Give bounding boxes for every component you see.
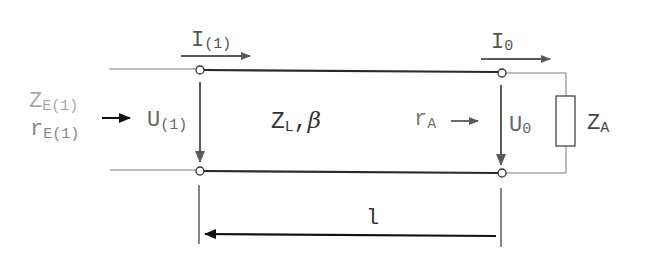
load-impedance-resistor (556, 96, 575, 146)
line-params-label: ZL,β (271, 107, 321, 136)
line-conductor-bottom (204, 171, 498, 173)
load-impedance-label: ZA (587, 111, 609, 137)
node-input-bottom (196, 167, 204, 175)
length-label: l (366, 206, 379, 231)
line-conductor-top (204, 70, 498, 72)
output-voltage-label: U0 (509, 113, 531, 138)
input-current-label: I(1) (191, 28, 231, 53)
input-voltage-label: U(1) (147, 108, 187, 134)
load-wire-bottom (506, 146, 566, 173)
length-arrow-icon (205, 234, 496, 236)
load-reflection-label: rA (414, 107, 436, 133)
output-current-label: I0 (491, 30, 513, 55)
load-wire-top (506, 73, 566, 96)
node-output-bottom (498, 169, 506, 177)
input-reflection-label: rE(1) (30, 117, 79, 143)
input-impedance-label: ZE(1) (29, 89, 78, 115)
transmission-line-diagram: I(1) I0 U(1) U0 ZL,β ZE(1) rE(1) rA ZA l (0, 0, 647, 262)
node-output-top (498, 69, 506, 77)
node-input-top (196, 66, 204, 74)
